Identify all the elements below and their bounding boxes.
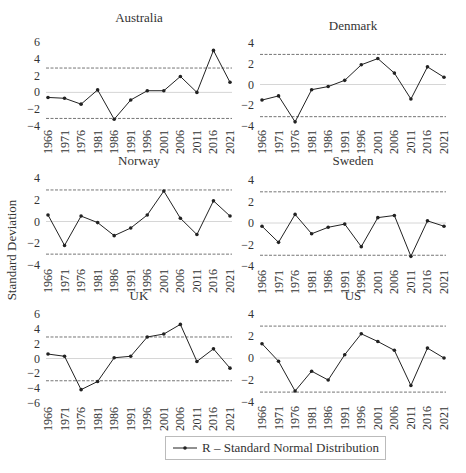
legend: R – Standard Normal Distribution bbox=[165, 436, 386, 460]
data-point bbox=[112, 117, 116, 121]
x-tick-label: 1971 bbox=[58, 407, 72, 431]
data-point bbox=[179, 75, 183, 79]
y-tick-label: −2 bbox=[27, 236, 40, 250]
y-tick-label: 0 bbox=[248, 78, 254, 92]
x-tick-label: 1986 bbox=[107, 407, 121, 431]
y-tick-label: −4 bbox=[27, 258, 40, 272]
data-point bbox=[96, 380, 100, 384]
panel-title: Sweden bbox=[332, 153, 374, 168]
data-point bbox=[46, 96, 50, 100]
data-point bbox=[79, 214, 83, 218]
x-tick-label: 2006 bbox=[387, 270, 401, 294]
data-point bbox=[359, 332, 363, 336]
data-point bbox=[426, 346, 430, 350]
data-point bbox=[393, 349, 397, 353]
data-point bbox=[260, 98, 264, 102]
y-tick-label: −6 bbox=[27, 396, 40, 410]
x-tick-label: 2006 bbox=[387, 406, 401, 430]
x-tick-label: 1986 bbox=[107, 130, 121, 154]
data-point bbox=[326, 85, 330, 89]
panel-norway: Norway420−2−4196619711976198119861991199… bbox=[27, 153, 237, 293]
series-line bbox=[48, 50, 230, 119]
series-line bbox=[262, 214, 444, 256]
y-tick-label: −2 bbox=[241, 98, 254, 112]
x-tick-label: 2021 bbox=[223, 130, 237, 154]
y-tick-label: 6 bbox=[34, 35, 40, 49]
x-tick-label: 2001 bbox=[157, 130, 171, 154]
x-tick-label: 2006 bbox=[173, 269, 187, 293]
data-point bbox=[359, 63, 363, 67]
x-tick-label: 2016 bbox=[420, 270, 434, 294]
y-axis-label: Standard Deviation bbox=[2, 180, 22, 320]
data-point bbox=[212, 199, 216, 203]
y-tick-label: 4 bbox=[34, 171, 40, 185]
x-tick-label: 2016 bbox=[420, 130, 434, 154]
y-tick-label: −4 bbox=[241, 259, 254, 273]
x-tick-label: 2011 bbox=[190, 407, 204, 431]
x-tick-label: 2021 bbox=[437, 406, 451, 430]
panel-denmark: Denmark420−2−419661971197619811986199119… bbox=[241, 18, 451, 154]
y-tick-label: 6 bbox=[34, 307, 40, 321]
x-tick-label: 1971 bbox=[58, 130, 72, 154]
data-point bbox=[310, 232, 314, 236]
data-point bbox=[179, 216, 183, 220]
x-tick-label: 1986 bbox=[321, 406, 335, 430]
data-point bbox=[359, 245, 363, 249]
data-point bbox=[63, 96, 67, 100]
data-point bbox=[162, 189, 166, 193]
data-point bbox=[228, 366, 232, 370]
y-tick-label: −4 bbox=[27, 119, 40, 133]
y-tick-label: 2 bbox=[248, 57, 254, 71]
panel-title: Norway bbox=[118, 153, 160, 168]
data-point bbox=[63, 244, 67, 248]
x-tick-label: 2006 bbox=[173, 407, 187, 431]
panel-title: Australia bbox=[115, 10, 163, 25]
x-tick-label: 2001 bbox=[157, 269, 171, 293]
series-line bbox=[48, 191, 230, 245]
x-tick-label: 1976 bbox=[288, 130, 302, 154]
data-point bbox=[96, 88, 100, 92]
data-point bbox=[326, 378, 330, 382]
legend-label: R – Standard Normal Distribution bbox=[202, 440, 379, 456]
x-tick-label: 1966 bbox=[255, 270, 269, 294]
x-tick-label: 1971 bbox=[272, 406, 286, 430]
data-point bbox=[409, 255, 413, 259]
data-point bbox=[426, 65, 430, 69]
data-point bbox=[162, 89, 166, 93]
y-tick-label: −4 bbox=[241, 395, 254, 409]
data-point bbox=[46, 352, 50, 356]
data-point bbox=[162, 332, 166, 336]
data-point bbox=[145, 335, 149, 339]
data-point bbox=[409, 384, 413, 388]
data-point bbox=[442, 356, 446, 360]
data-point bbox=[293, 213, 297, 217]
data-point bbox=[129, 226, 133, 230]
y-tick-label: −2 bbox=[241, 238, 254, 252]
x-tick-label: 2011 bbox=[190, 269, 204, 293]
data-point bbox=[343, 222, 347, 226]
x-tick-label: 2011 bbox=[404, 270, 418, 294]
data-point bbox=[376, 216, 380, 220]
data-point bbox=[442, 224, 446, 228]
data-point bbox=[277, 360, 281, 364]
x-tick-label: 1976 bbox=[74, 130, 88, 154]
x-tick-label: 1986 bbox=[321, 130, 335, 154]
x-tick-label: 1981 bbox=[91, 407, 105, 431]
series-line bbox=[262, 334, 444, 391]
data-point bbox=[79, 388, 83, 392]
x-tick-label: 2011 bbox=[190, 130, 204, 154]
y-tick-label: 4 bbox=[34, 322, 40, 336]
data-point bbox=[96, 221, 100, 225]
y-tick-label: 2 bbox=[34, 337, 40, 351]
data-point bbox=[145, 89, 149, 93]
y-tick-label: −4 bbox=[241, 119, 254, 133]
data-point bbox=[112, 356, 116, 360]
panel-sweden: Sweden420−2−4196619711976198119861991199… bbox=[241, 153, 451, 294]
x-tick-label: 2001 bbox=[157, 407, 171, 431]
x-tick-label: 1976 bbox=[74, 407, 88, 431]
data-point bbox=[129, 354, 133, 358]
x-tick-label: 2006 bbox=[173, 130, 187, 154]
data-point bbox=[277, 241, 281, 245]
y-tick-label: 4 bbox=[248, 173, 254, 187]
panel-us: US420−2−41966197119761981198619911996200… bbox=[241, 288, 451, 430]
